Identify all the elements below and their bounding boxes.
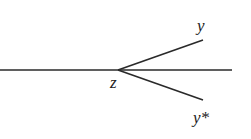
label-z: z [109,73,117,92]
diagram-canvas: y z y* [0,0,251,139]
ray-to-y-star [118,70,203,100]
label-y-star: y* [191,108,210,127]
ray-to-y [118,40,203,70]
label-y: y [195,16,205,35]
